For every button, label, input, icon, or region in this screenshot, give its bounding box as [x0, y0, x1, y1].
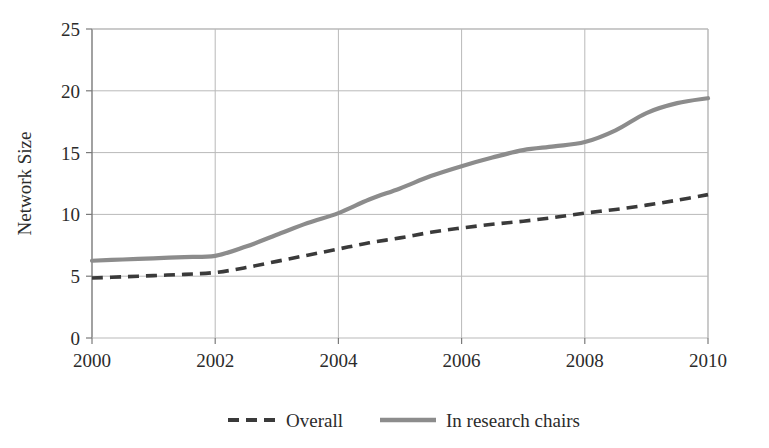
x-tick-label: 2000	[73, 350, 111, 371]
x-tick-label: 2004	[319, 350, 358, 371]
chart-background	[0, 0, 769, 448]
y-axis-title: Network Size	[14, 132, 35, 236]
y-tick-label: 25	[61, 19, 80, 40]
y-tick-label: 0	[71, 328, 81, 349]
x-tick-label: 2006	[443, 350, 481, 371]
legend-label-overall: Overall	[286, 410, 343, 431]
y-tick-label: 10	[61, 204, 80, 225]
x-tick-label: 2010	[689, 350, 727, 371]
x-tick-label: 2002	[196, 350, 234, 371]
x-tick-label: 2008	[566, 350, 604, 371]
legend-label-in-research-chairs: In research chairs	[446, 410, 580, 431]
y-tick-label: 5	[71, 266, 81, 287]
y-tick-label: 20	[61, 81, 80, 102]
network-size-line-chart: 0510152025200020022004200620082010 Netwo…	[0, 0, 769, 448]
y-tick-label: 15	[61, 143, 80, 164]
chart-figure: 0510152025200020022004200620082010 Netwo…	[0, 0, 769, 448]
